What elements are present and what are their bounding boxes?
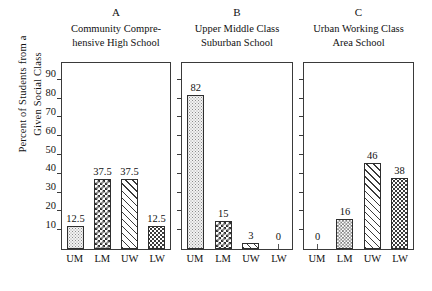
- panel-c-x-labels: UMLMUWLW: [303, 253, 414, 265]
- bar-slot: 0: [265, 63, 293, 249]
- panel-a-title: Community Compre- hensive High School: [53, 22, 179, 49]
- y-axis-tick-label: 50: [32, 145, 56, 156]
- bar-uw[interactable]: [242, 243, 259, 249]
- bar-slot: 38: [386, 63, 413, 249]
- x-axis-label-um: UM: [61, 253, 89, 265]
- bar-value-label: 0: [276, 231, 281, 242]
- panel-b: B Upper Middle Class Suburban School 821…: [181, 0, 293, 291]
- panel-b-plot-area: 821530: [181, 62, 293, 250]
- panel-a: A Community Compre- hensive High School …: [61, 0, 171, 291]
- x-axis-label-uw: UW: [359, 253, 387, 265]
- bar-value-label: 37.5: [93, 166, 111, 177]
- panel-a-title-line1: Community Compre-: [53, 22, 179, 36]
- x-axis-label-um: UM: [303, 253, 331, 265]
- bar-value-label: 46: [367, 150, 378, 161]
- bar-value-label: 16: [340, 206, 351, 217]
- bar-slot: 15: [210, 63, 238, 249]
- bar-lw[interactable]: [278, 244, 279, 249]
- panel-c-title: Urban Working Class Area School: [295, 22, 422, 49]
- bar-value-label: 37.5: [120, 166, 138, 177]
- bar-lw[interactable]: [391, 178, 408, 249]
- panel-b-x-labels: UMLMUWLW: [181, 253, 293, 265]
- x-axis-label-uw: UW: [237, 253, 265, 265]
- panel-c-letter: C: [303, 6, 414, 18]
- panel-a-plot-area: 102030405060708090 12.537.537.512.5: [61, 62, 171, 250]
- panel-c-title-line1: Urban Working Class: [295, 22, 422, 36]
- x-axis-label-lm: LM: [209, 253, 237, 265]
- y-axis-tick-label: 40: [32, 163, 56, 174]
- bar-um[interactable]: [67, 226, 84, 250]
- bar-slot: 3: [237, 63, 265, 249]
- bar-slot: 16: [331, 63, 358, 249]
- panel-b-bars: 821530: [182, 63, 292, 249]
- x-axis-label-lw: LW: [144, 253, 172, 265]
- y-axis-tick-label: 60: [32, 126, 56, 137]
- panel-c-title-line2: Area School: [295, 36, 422, 50]
- figure-root: Percent of Students from a Given Social …: [0, 0, 432, 291]
- bar-value-label: 38: [394, 165, 405, 176]
- x-axis-label-um: UM: [181, 253, 209, 265]
- y-axis-tick-label: 70: [32, 107, 56, 118]
- y-axis-tick-label: 80: [32, 88, 56, 99]
- bar-slot: 12.5: [62, 63, 89, 249]
- panel-c-bars: 0164638: [304, 63, 413, 249]
- panel-a-x-labels: UMLMUWLW: [61, 253, 171, 265]
- bar-slot: 37.5: [89, 63, 116, 249]
- y-axis-tick-label: 10: [32, 220, 56, 231]
- y-axis-tick-label: 30: [32, 182, 56, 193]
- bar-slot: 12.5: [143, 63, 170, 249]
- bar-slot: 46: [359, 63, 386, 249]
- x-axis-label-lm: LM: [331, 253, 359, 265]
- x-axis-label-lw: LW: [386, 253, 414, 265]
- panel-b-title-line2: Suburban School: [173, 36, 301, 50]
- bar-uw[interactable]: [121, 179, 138, 250]
- bar-uw[interactable]: [364, 163, 381, 249]
- panel-b-title: Upper Middle Class Suburban School: [173, 22, 301, 49]
- bar-lm[interactable]: [336, 219, 353, 249]
- x-axis-label-uw: UW: [116, 253, 144, 265]
- bar-value-label: 82: [191, 82, 202, 93]
- bar-value-label: 12.5: [66, 213, 84, 224]
- bar-lm[interactable]: [215, 221, 232, 249]
- bar-lm[interactable]: [94, 179, 111, 250]
- bar-um[interactable]: [187, 95, 204, 249]
- y-axis-title-line1: Percent of Students from a: [15, 0, 30, 189]
- panel-c: C Urban Working Class Area School 016463…: [303, 0, 414, 291]
- bar-value-label: 0: [315, 231, 320, 242]
- panel-a-title-line2: hensive High School: [53, 36, 179, 50]
- x-axis-label-lw: LW: [265, 253, 293, 265]
- bar-slot: 82: [182, 63, 210, 249]
- bar-slot: 37.5: [116, 63, 143, 249]
- panel-b-title-line1: Upper Middle Class: [173, 22, 301, 36]
- bar-lw[interactable]: [148, 226, 165, 250]
- x-axis-label-lm: LM: [89, 253, 117, 265]
- bar-value-label: 15: [218, 208, 229, 219]
- y-axis-tick-label: 90: [32, 69, 56, 80]
- panel-a-bars: 12.537.537.512.5: [62, 63, 170, 249]
- panel-b-letter: B: [181, 6, 293, 18]
- y-axis-tick-label: 20: [32, 201, 56, 212]
- panel-c-plot-area: 0164638: [303, 62, 414, 250]
- bar-um[interactable]: [317, 244, 318, 249]
- bar-value-label: 12.5: [147, 213, 165, 224]
- panel-a-letter: A: [61, 6, 171, 18]
- bar-slot: 0: [304, 63, 331, 249]
- bar-value-label: 3: [248, 230, 253, 241]
